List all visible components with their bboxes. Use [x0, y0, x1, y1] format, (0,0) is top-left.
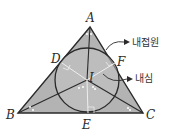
- incircle-label: 내접원: [132, 37, 159, 48]
- label-d: D: [50, 52, 61, 66]
- label-c: C: [146, 108, 155, 122]
- label-a: A: [85, 11, 95, 25]
- label-f: F: [116, 55, 126, 69]
- incenter-label: 내심: [135, 73, 153, 84]
- label-e: E: [81, 118, 91, 132]
- label-b: B: [5, 108, 15, 122]
- arrowhead-incircle-icon: [124, 39, 130, 45]
- arrowhead-incenter-icon: [127, 76, 133, 82]
- arrow-incircle: [106, 42, 124, 50]
- incircle-diagram: A B C D E F I 내접원 내심: [0, 0, 175, 137]
- label-i: I: [88, 71, 94, 85]
